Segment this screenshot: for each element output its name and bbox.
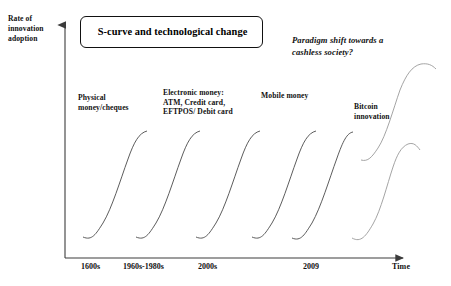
s-curve-4-mobile (252, 131, 316, 238)
annotation-bitcoin-innovation: Bitcoin innovation (354, 102, 390, 121)
s-curve-6-bitcoin (352, 143, 420, 239)
x-tick-label-2000s: 2000s (198, 262, 217, 271)
annotation-mobile-money: Mobile money (261, 91, 308, 101)
annotation-paradigm-shift: Paradigm shift towards a cashless societ… (292, 35, 383, 58)
annotation-physical-money: Physical money/cheques (78, 93, 129, 112)
page-title: S-curve and technological change (81, 26, 264, 37)
s-curve-3-electronic-continued (196, 131, 260, 238)
x-axis-title: Time (392, 262, 410, 272)
x-tick-label-1960s-1980s: 1960s-1980s (123, 262, 164, 271)
x-tick-label-2009: 2009 (303, 262, 319, 271)
s-curve-2-electronic (136, 131, 200, 238)
x-tick-label-1600s: 1600s (81, 262, 100, 271)
diagram-canvas: Rate of innovation adoption Time S-curve… (0, 0, 451, 286)
s-curve-1-physical (83, 131, 147, 238)
title-box: S-curve and technological change (80, 16, 263, 48)
y-axis-title: Rate of innovation adoption (8, 14, 60, 44)
annotation-electronic-money: Electronic money: ATM, Credit card, EFTP… (163, 88, 233, 117)
